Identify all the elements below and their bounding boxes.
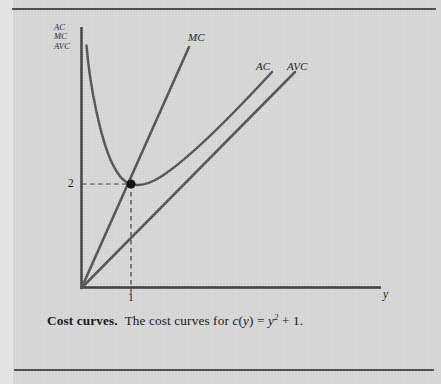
y-axis-tick-label: 2: [68, 177, 74, 189]
caption-body: The cost curves for: [125, 313, 233, 328]
minimum-point-marker: [126, 179, 135, 188]
curve-label-ac: AC: [256, 60, 270, 72]
curve-label-mc: MC: [188, 31, 205, 43]
figure-caption: Cost curves.The cost curves for c(y) = y…: [47, 312, 303, 329]
curve-label-avc: AVC: [287, 60, 307, 72]
y-axis-label-avc: AVC: [54, 42, 70, 51]
caption-math-equals: =: [254, 313, 268, 328]
figure-page: AC MC AVC MC AC AVC 2 1 y Cost curves.Th…: [0, 0, 441, 384]
avc-curve: [82, 72, 296, 288]
y-axis-label-stack: AC MC AVC: [54, 23, 70, 51]
guide-lines: [82, 184, 131, 293]
x-axis-tick-label: 1: [128, 291, 134, 303]
plot-axes: [81, 27, 382, 289]
x-axis-variable-label: y: [383, 288, 388, 300]
caption-lead: Cost curves.: [47, 313, 118, 328]
caption-math-plus: + 1.: [278, 313, 303, 328]
